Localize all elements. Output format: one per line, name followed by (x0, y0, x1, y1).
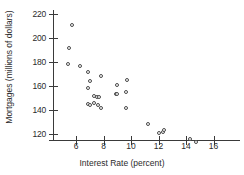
x-axis-title: Interest Rate (percent) (0, 158, 244, 168)
y-tick-mark (49, 86, 58, 87)
x-tick-label: 14 (176, 142, 196, 151)
data-point (124, 90, 128, 94)
y-axis-line (53, 10, 54, 140)
y-tick-mark (49, 62, 58, 63)
data-point (99, 74, 103, 78)
y-tick-label: 160 (18, 82, 46, 91)
data-point (115, 92, 119, 96)
data-point (86, 70, 90, 74)
data-point (86, 86, 90, 90)
data-point (115, 83, 119, 87)
data-point (88, 103, 92, 107)
data-point (97, 95, 101, 99)
data-point (67, 46, 71, 50)
data-point (188, 137, 192, 141)
y-axis-title: Mortgages (millions of dollars) (4, 2, 14, 132)
x-tick-label: 16 (204, 142, 224, 151)
y-tick-label: 140 (18, 106, 46, 115)
data-point (70, 23, 74, 27)
data-point (146, 122, 150, 126)
y-tick-mark (49, 134, 58, 135)
data-point (88, 79, 92, 83)
data-point (78, 64, 82, 68)
y-tick-mark (49, 14, 58, 15)
x-tick-label: 8 (94, 142, 114, 151)
data-point (157, 131, 161, 135)
y-tick-mark (49, 110, 58, 111)
y-tick-label: 200 (18, 34, 46, 43)
data-point (99, 106, 103, 110)
scatter-plot: 120140160180200220 6810121416 Interest R… (0, 0, 244, 175)
data-point (162, 128, 166, 132)
x-tick-label: 10 (121, 142, 141, 151)
data-point (124, 106, 128, 110)
x-tick-label: 6 (66, 142, 86, 151)
data-point (66, 62, 70, 66)
y-tick-mark (49, 38, 58, 39)
data-point (194, 140, 198, 144)
data-point (125, 78, 129, 82)
x-tick-label: 12 (149, 142, 169, 151)
y-tick-label: 220 (18, 10, 46, 19)
y-tick-label: 120 (18, 130, 46, 139)
y-tick-label: 180 (18, 58, 46, 67)
